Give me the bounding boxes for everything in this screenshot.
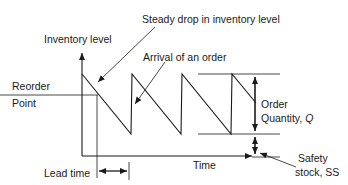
safety-stock-pointer (260, 153, 296, 167)
inventory-diagram (0, 0, 348, 185)
sawtooth-inventory-line (82, 74, 256, 134)
safety-stock-label-1: Safety (298, 152, 328, 164)
arrival-label: Arrival of an order (143, 51, 226, 63)
order-qty-label-2: Quantity, Q (261, 112, 313, 124)
reorder-label-2: Point (12, 97, 36, 109)
y-axis-label: Inventory level (44, 33, 112, 45)
x-axis-label: Time (193, 159, 216, 171)
lead-time-label: Lead time (44, 167, 90, 179)
order-qty-label-1: Order (261, 98, 288, 110)
order-qty-symbol: Q (305, 112, 313, 124)
steady-drop-label: Steady drop in inventory level (142, 13, 280, 25)
reorder-label-1: Reorder (12, 80, 50, 92)
safety-stock-label-2: stock, SS (295, 166, 339, 178)
